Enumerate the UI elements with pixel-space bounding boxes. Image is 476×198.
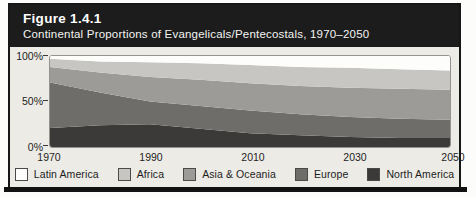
legend-swatch-asia-oceania [183, 168, 196, 181]
x-tick-label-2010: 2010 [223, 151, 283, 163]
legend-swatch-africa [118, 168, 131, 181]
stacked-area-svg [50, 56, 450, 147]
y-tick-mark-0 [43, 145, 48, 146]
legend-label-latin-america: Latin America [34, 168, 99, 180]
figure-number: Figure 1.4.1 [23, 10, 449, 27]
y-tick-label-50: 50% [11, 95, 43, 107]
legend-label-europe: Europe [314, 168, 348, 180]
legend-swatch-europe [295, 168, 308, 181]
y-tick-mark-50 [43, 100, 48, 101]
x-tick-label-1970: 1970 [19, 151, 79, 163]
x-tick-label-1990: 1990 [121, 151, 181, 163]
figure-header: Figure 1.4.1 Continental Proportions of … [10, 5, 459, 47]
legend-item-europe: Europe [295, 168, 348, 181]
legend-swatch-north-america [367, 168, 380, 181]
figure-title: Continental Proportions of Evangelicals/… [23, 27, 449, 41]
chart-legend: Latin America Africa Asia & Oceania Euro… [10, 166, 459, 182]
legend-label-africa: Africa [137, 168, 164, 180]
legend-label-asia-oceania: Asia & Oceania [202, 168, 276, 180]
figure-bottom-rule [4, 187, 467, 192]
legend-item-africa: Africa [118, 168, 164, 181]
legend-item-asia-oceania: Asia & Oceania [183, 168, 276, 181]
y-tick-mark-100 [43, 55, 48, 56]
x-tick-label-2050: 2050 [423, 151, 476, 163]
legend-item-latin-america: Latin America [15, 168, 99, 181]
legend-item-north-america: North America [367, 168, 454, 181]
legend-swatch-latin-america [15, 168, 28, 181]
x-tick-label-2030: 2030 [325, 151, 385, 163]
plot-area [49, 55, 451, 148]
y-tick-label-100: 100% [11, 50, 43, 62]
legend-label-north-america: North America [386, 168, 454, 180]
figure-frame: Figure 1.4.1 Continental Proportions of … [8, 3, 461, 187]
